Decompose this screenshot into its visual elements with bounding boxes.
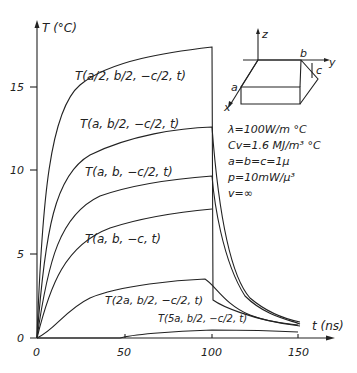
inset-b-label: b (300, 47, 307, 60)
inset-a-label: a (231, 81, 238, 94)
x-axis-label: t (ns) (312, 319, 344, 333)
y-tick-5: 5 (17, 248, 24, 261)
curve-2a (37, 279, 298, 338)
param-velocity: v=∞ (228, 187, 253, 200)
inset-y-label: y (328, 56, 336, 69)
curve-5a (37, 330, 298, 338)
y-axis-label: T (°C) (42, 21, 77, 35)
param-power: p=10mW/μ³ (227, 171, 295, 184)
inset-x-label: x (223, 101, 231, 114)
x-tick-50: 50 (117, 346, 131, 359)
y-tick-15: 15 (10, 81, 24, 94)
x-tick-0: 0 (33, 346, 40, 359)
param-lambda: λ=100W/m °C (227, 123, 307, 136)
curve1-label: T(a/2, b/2, −c/2, t) (75, 69, 186, 83)
curve3-label: T(a, b, −c/2, t) (85, 165, 173, 179)
curve6-label: T(5a, b/2, −c/2, t) (158, 313, 247, 324)
y-tick-0: 0 (17, 332, 24, 345)
temperature-chart: 0 5 10 15 0 50 100 150 T (°C) t (ns) T(a… (0, 0, 357, 373)
curve2-label: T(a, b/2, −c/2, t) (80, 117, 179, 131)
curve4-label: T(a, b, −c, t) (85, 232, 161, 246)
inset-diagram (228, 28, 330, 108)
y-tick-10: 10 (10, 164, 24, 177)
x-tick-100: 100 (201, 346, 222, 359)
inset-c-label: c (316, 64, 322, 77)
inset-z-label: z (261, 28, 268, 41)
x-tick-150: 150 (288, 346, 309, 359)
param-cv: Cv=1.6 MJ/m³ °C (228, 139, 321, 152)
curve5-label: T(2a, b/2, −c/2, t) (105, 294, 203, 307)
param-dims: a=b=c=1μ (228, 155, 289, 168)
